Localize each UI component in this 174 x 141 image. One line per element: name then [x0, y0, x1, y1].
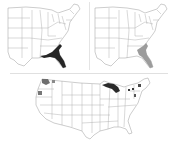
- shaded-region-new-york: [128, 89, 130, 91]
- shaded-region-pennsylvania: [134, 94, 136, 97]
- map-panel-contiguous-us: [0, 75, 174, 141]
- map-panel-eastern-us-dark: [0, 0, 89, 72]
- shaded-region-new-england: [138, 84, 141, 87]
- horizontal-divider: [10, 73, 168, 74]
- contiguous-us-map: [0, 75, 174, 141]
- eastern-us-map: [0, 0, 89, 72]
- shaded-region-oregon-coast: [38, 91, 42, 95]
- map-panel-eastern-us-light: [91, 0, 174, 72]
- eastern-us-map: [91, 0, 174, 72]
- vertical-divider: [89, 2, 90, 70]
- shaded-region-idaho: [52, 80, 55, 83]
- shaded-region-new-york: [132, 88, 134, 90]
